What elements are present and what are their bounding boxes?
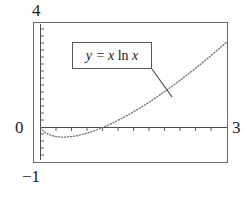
equation-x-second: x [132, 48, 138, 63]
equation-ln: ln [118, 48, 129, 63]
x-axis-max-label: 3 [232, 119, 241, 136]
curve-equation-text: y = x ln x [86, 48, 139, 64]
function-graph-figure: 4 0 3 −1 y = x ln x [0, 0, 246, 198]
origin-label: 0 [15, 119, 24, 136]
y-axis-min-label: −1 [22, 168, 40, 185]
equation-equals: = [97, 48, 105, 63]
equation-x-first: x [108, 48, 114, 63]
curve-equation-box: y = x ln x [72, 42, 152, 69]
y-axis-max-label: 4 [32, 2, 41, 19]
